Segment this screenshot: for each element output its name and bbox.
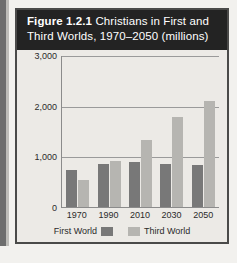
bar-first-world (192, 165, 203, 207)
x-axis-tick-label: 1990 (95, 210, 121, 224)
bar-third-world (110, 161, 121, 207)
bar-group (192, 56, 215, 207)
legend-label-first-world: First World (54, 226, 97, 236)
y-axis-tick-label: 0 (52, 203, 57, 213)
legend-swatch-first-world (101, 227, 113, 236)
figure-caption-banner: Figure 1.2.1 Christians in First and Thi… (17, 10, 227, 50)
y-axis-tick-label: 2,000 (34, 102, 57, 112)
x-axis-labels: 19701990201020302050 (61, 210, 219, 224)
legend-swatch-third-world (128, 227, 140, 236)
bar-first-world (66, 170, 77, 207)
legend-label-third-world: Third World (144, 226, 190, 236)
bar-third-world (141, 140, 152, 207)
bar-first-world (160, 164, 171, 207)
x-axis-tick-label: 2030 (159, 210, 185, 224)
y-axis-tick-label: 3,000 (34, 51, 57, 61)
bar-third-world (204, 101, 215, 207)
figure-caption-label: Figure 1.2.1 (27, 15, 92, 27)
bars-layer (62, 56, 219, 207)
bar-group (160, 56, 183, 207)
x-axis-tick-label: 2050 (190, 210, 216, 224)
bar-third-world (172, 117, 183, 207)
bar-first-world (129, 162, 140, 207)
chart-plot-area (61, 56, 219, 208)
x-axis-tick-label: 1970 (64, 210, 90, 224)
bar-group (129, 56, 152, 207)
figure-container: Figure 1.2.1 Christians in First and Thi… (0, 0, 237, 263)
chart-plot-wrapper: 01,0002,0003,000 19701990201020302050 Fi… (17, 50, 227, 244)
bar-third-world (78, 180, 89, 207)
figure-frame: Figure 1.2.1 Christians in First and Thi… (15, 8, 229, 244)
chart-legend: First World Third World (17, 226, 227, 236)
x-axis-tick-label: 2010 (127, 210, 153, 224)
bar-first-world (98, 164, 109, 207)
bar-group (98, 56, 121, 207)
y-axis-labels: 01,0002,0003,000 (17, 50, 61, 210)
y-axis-tick-label: 1,000 (34, 152, 57, 162)
figure-caption: Figure 1.2.1 Christians in First and Thi… (27, 14, 219, 44)
page-gutter-strip-inner (6, 0, 9, 246)
bar-group (66, 56, 89, 207)
